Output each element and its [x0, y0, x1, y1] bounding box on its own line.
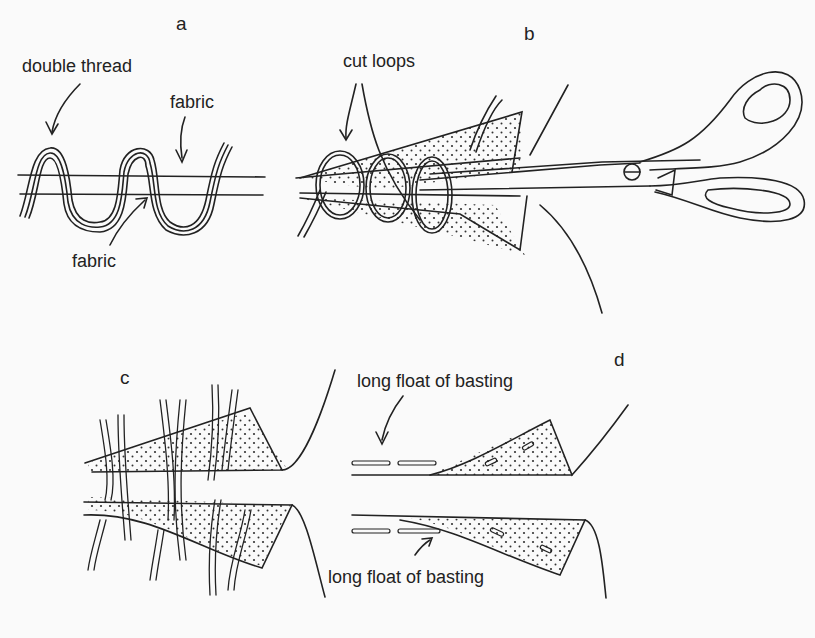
panel-b-letter: b [524, 24, 535, 43]
panel-c-drawing [84, 370, 335, 597]
label-basting-bottom: long float of basting [328, 568, 484, 586]
diagram-drawing [0, 0, 815, 638]
label-fabric-top: fabric [170, 93, 214, 111]
panel-c-letter: c [120, 368, 130, 387]
panel-d-letter: d [614, 350, 625, 369]
label-basting-top: long float of basting [357, 372, 513, 390]
label-cut-loops: cut loops [343, 52, 415, 70]
panel-b-drawing [296, 72, 804, 313]
label-fabric-bottom: fabric [72, 252, 116, 270]
label-double-thread: double thread [22, 57, 132, 75]
tailor-tacks-diagram: a b c d double thread fabric fabric cut … [0, 0, 815, 638]
panel-a-drawing [18, 84, 265, 245]
panel-a-letter: a [176, 14, 187, 33]
